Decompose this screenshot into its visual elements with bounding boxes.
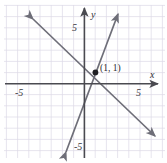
graph-figure: y x 5 -5 -5 5 (1, 1) xyxy=(0,0,167,163)
graph-svg: y x 5 -5 -5 5 (1, 1) xyxy=(0,0,167,163)
intersection-point xyxy=(93,70,99,76)
x-tick-positive-label: 5 xyxy=(136,87,141,98)
axes xyxy=(5,8,158,158)
y-tick-positive-label: 5 xyxy=(72,22,77,33)
y-axis-label: y xyxy=(90,9,96,20)
x-axis-label: x xyxy=(149,69,155,80)
intersection-point-label: (1, 1) xyxy=(100,63,121,74)
x-tick-negative-label: -5 xyxy=(15,87,23,98)
y-tick-negative-label: -5 xyxy=(74,141,82,152)
